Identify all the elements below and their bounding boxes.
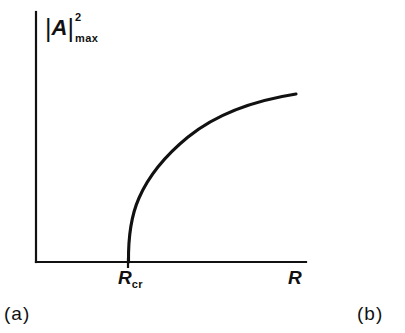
bifurcation-curve [128,94,296,262]
y-label-variable: A [52,15,68,40]
y-label-exponent-subscript-group: 2 max [75,12,99,33]
y-label-subscript: max [75,33,99,44]
plot-area: |A| 2 max Rcr R [0,0,330,300]
y-label-bar-right: | [67,14,74,42]
x-axis-label: R [288,268,302,287]
x-tick-subscript: cr [132,278,143,290]
y-label-exponent: 2 [75,12,99,22]
figure-root: |A| 2 max Rcr R (a) (b) [0,0,405,333]
x-tick-variable: R [118,267,132,288]
panel-caption-b: (b) [357,304,383,323]
x-axis-variable: R [288,267,302,288]
plot-svg [0,0,330,300]
x-axis-tick-label: Rcr [118,268,143,287]
y-axis-label: |A| 2 max [45,16,98,41]
panel-caption-a: (a) [4,304,30,323]
